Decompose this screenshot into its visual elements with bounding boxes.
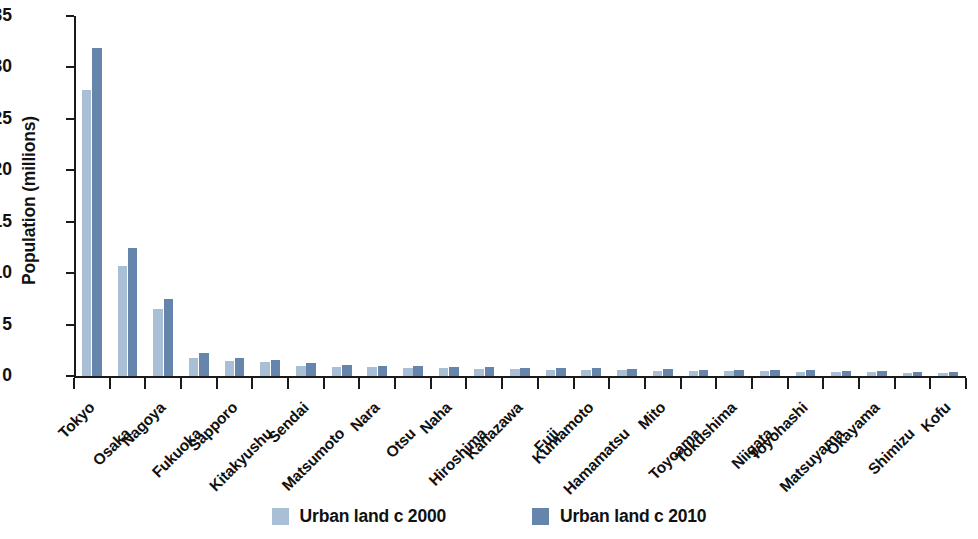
x-axis-tick xyxy=(144,378,146,389)
bar xyxy=(796,372,806,376)
bar xyxy=(439,368,449,376)
bar xyxy=(367,367,377,376)
y-axis-tick-label: 5 xyxy=(0,316,12,334)
legend-item[interactable]: Urban land c 2000 xyxy=(272,506,446,527)
bar xyxy=(627,369,637,376)
x-axis-tick xyxy=(894,378,896,389)
x-axis-tick xyxy=(180,378,182,389)
bar xyxy=(474,369,484,376)
bar xyxy=(760,371,770,376)
bar xyxy=(235,358,245,377)
x-axis-tick xyxy=(287,378,289,389)
x-axis-line xyxy=(74,376,966,378)
x-axis-tick xyxy=(537,378,539,389)
y-axis-tick xyxy=(66,169,74,171)
bar xyxy=(520,368,530,376)
bar xyxy=(842,371,852,376)
y-axis-tick xyxy=(66,15,74,17)
x-axis-tick xyxy=(787,378,789,389)
bar xyxy=(806,370,816,376)
bar xyxy=(903,373,913,376)
bar xyxy=(949,372,959,376)
x-axis-tick xyxy=(608,378,610,389)
bar xyxy=(663,369,673,376)
y-axis-tick-label: 15 xyxy=(0,213,12,231)
x-axis-tick xyxy=(501,378,503,389)
x-axis-tick xyxy=(394,378,396,389)
y-axis-tick xyxy=(66,118,74,120)
bar xyxy=(153,309,163,376)
x-axis-tick xyxy=(751,378,753,389)
bar xyxy=(699,370,709,376)
x-axis-tick xyxy=(715,378,717,389)
x-axis-tick xyxy=(680,378,682,389)
bar xyxy=(413,366,423,376)
x-axis-tick xyxy=(73,378,75,389)
legend-swatch-icon xyxy=(272,508,289,525)
bar xyxy=(617,370,627,376)
bar xyxy=(877,371,887,376)
y-axis-title: Population (millions) xyxy=(19,76,40,326)
x-axis-tick-labels: TokyoOsakaNagoyaFukuokaSapporoKitakyushu… xyxy=(74,392,966,500)
x-axis-tick xyxy=(430,378,432,389)
x-axis-tick xyxy=(929,378,931,389)
x-axis-tick xyxy=(822,378,824,389)
bar xyxy=(724,371,734,376)
bar xyxy=(510,369,520,376)
y-axis-tick xyxy=(66,272,74,274)
bar xyxy=(260,362,270,376)
bar xyxy=(403,368,413,376)
legend-item[interactable]: Urban land c 2010 xyxy=(532,506,706,527)
chart-legend: Urban land c 2000Urban land c 2010 xyxy=(0,506,978,527)
bar xyxy=(271,360,281,376)
bar xyxy=(306,363,316,376)
x-axis-tick xyxy=(644,378,646,389)
bar xyxy=(485,367,495,376)
y-axis-tick-label: 25 xyxy=(0,110,12,128)
y-axis-tick xyxy=(66,66,74,68)
bar xyxy=(913,372,923,376)
y-axis-tick-label: 35 xyxy=(0,7,12,25)
bar xyxy=(546,370,556,376)
bar xyxy=(770,370,780,376)
bar xyxy=(189,358,199,377)
plot-area xyxy=(74,16,966,378)
x-axis-tick xyxy=(573,378,575,389)
x-axis-tick xyxy=(251,378,253,389)
x-axis-tick xyxy=(858,378,860,389)
bar xyxy=(164,299,174,376)
bar xyxy=(225,361,235,376)
bar xyxy=(556,368,566,376)
bars-layer xyxy=(74,16,966,376)
bar xyxy=(92,48,102,376)
bar-chart: Population (millions) 05101520253035 Tok… xyxy=(0,0,978,539)
bar xyxy=(592,368,602,376)
y-axis-tick-label: 0 xyxy=(0,367,12,385)
x-axis-tick xyxy=(109,378,111,389)
legend-swatch-icon xyxy=(532,508,549,525)
x-axis-tick xyxy=(465,378,467,389)
x-axis-tick xyxy=(358,378,360,389)
y-axis-tick-label: 20 xyxy=(0,161,12,179)
legend-label: Urban land c 2010 xyxy=(560,506,706,527)
bar xyxy=(342,365,352,376)
bar xyxy=(938,373,948,376)
x-axis-tick xyxy=(965,378,967,389)
bar xyxy=(296,366,306,376)
bar xyxy=(734,370,744,376)
bar xyxy=(653,371,663,376)
bar xyxy=(118,266,128,376)
bar xyxy=(199,353,209,376)
y-axis-tick xyxy=(66,221,74,223)
bar xyxy=(581,370,591,376)
bar xyxy=(449,367,459,376)
y-axis-tick xyxy=(66,324,74,326)
y-axis-tick-label: 30 xyxy=(0,58,12,76)
bar xyxy=(82,90,92,376)
bar xyxy=(378,366,388,376)
y-axis-tick xyxy=(66,375,74,377)
x-axis-tick xyxy=(216,378,218,389)
bar xyxy=(867,372,877,376)
legend-label: Urban land c 2000 xyxy=(300,506,446,527)
y-axis-tick-label: 10 xyxy=(0,264,12,282)
